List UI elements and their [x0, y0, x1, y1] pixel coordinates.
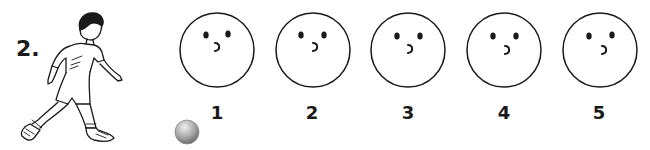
left-eye-icon — [298, 31, 303, 38]
face-label-3: 3 — [393, 102, 423, 123]
face-label-2: 2 — [297, 102, 327, 123]
right-eye-icon — [225, 30, 230, 37]
left-eye-icon — [490, 32, 495, 39]
face-outline — [371, 13, 445, 87]
face-label-1: 1 — [202, 102, 232, 123]
boy-kicking-ball-illustration — [8, 8, 123, 143]
ball-icon — [174, 119, 200, 145]
face-1[interactable] — [179, 12, 255, 88]
face-2[interactable] — [275, 12, 351, 88]
face-label-4: 4 — [489, 102, 519, 123]
left-eye-icon — [394, 32, 399, 39]
left-eye-icon — [203, 31, 208, 38]
face-label-5: 5 — [584, 102, 614, 123]
right-eye-icon — [417, 32, 422, 39]
right-eye-icon — [321, 31, 326, 38]
face-4[interactable] — [466, 12, 542, 88]
left-eye-icon — [586, 32, 591, 39]
right-eye-icon — [609, 31, 614, 38]
face-5[interactable] — [562, 12, 638, 88]
right-eye-icon — [513, 32, 518, 39]
face-outline — [563, 13, 637, 87]
face-3[interactable] — [370, 12, 446, 88]
face-outline — [467, 13, 541, 87]
